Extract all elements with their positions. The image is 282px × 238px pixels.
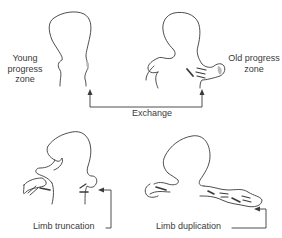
young-progress-zone-shading — [86, 60, 89, 70]
exchange-arrow — [88, 89, 205, 107]
exchange-label: Exchange — [122, 108, 182, 119]
young-progress-zone-label: Young progress zone — [0, 53, 50, 85]
truncation-embryo-outline — [24, 132, 97, 204]
diagram-art — [0, 0, 282, 238]
young-embryo-outline — [49, 12, 91, 86]
limb-duplication-label: Limb duplication — [156, 221, 226, 232]
old-limb-skeleton — [187, 68, 206, 78]
old-progress-zone-label: Old progress zone — [226, 53, 282, 74]
old-progress-zone-shading — [218, 66, 222, 75]
limb-truncation-label: Limb truncation — [33, 221, 103, 232]
truncation-limb-skeleton — [40, 184, 88, 192]
old-embryo-outline — [146, 12, 225, 88]
duplication-arrow — [232, 207, 266, 229]
